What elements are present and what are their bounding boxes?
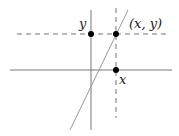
y-intercept-dot [88, 31, 94, 37]
y-label: y [78, 16, 87, 31]
xy-point-dot [113, 31, 119, 37]
point-label: (x, y) [129, 16, 162, 31]
coordinate-diagram: y (x, y) x [0, 0, 179, 136]
x-label: x [119, 72, 127, 87]
